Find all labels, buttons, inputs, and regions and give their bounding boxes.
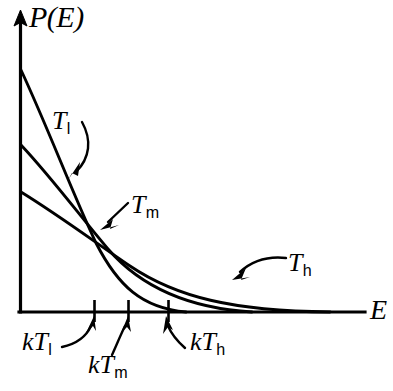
- curve-label-t-high-base: T: [288, 248, 302, 277]
- tick-label-ktm: kTm: [88, 352, 127, 378]
- curve-label-t-mid-base: T: [131, 190, 145, 219]
- curve-label-t-mid: Tm: [131, 192, 159, 218]
- tick-label-kth-base: T: [202, 327, 216, 356]
- tick-label-kth-subscript: h: [216, 340, 225, 358]
- pointer-ktl: [62, 316, 96, 347]
- pointer-t-mid-line: [108, 203, 128, 222]
- tick-label-kth: kTh: [190, 329, 225, 355]
- tick-label-ktl-base: T: [34, 327, 48, 356]
- tick-label-ktl: kTl: [22, 329, 52, 355]
- curve-t-mid: [21, 145, 252, 312]
- tick-label-ktm-subscript: m: [114, 363, 127, 381]
- y-axis-label: P(E): [29, 2, 84, 32]
- distribution-curves: [21, 70, 330, 312]
- pointer-t-high-line: [240, 258, 286, 272]
- curve-t-high: [21, 192, 330, 312]
- tick-label-ktm-prefix: k: [88, 350, 100, 379]
- pointer-t-low-arrowhead-icon: [68, 162, 80, 180]
- tick-label-ktl-subscript: l: [48, 340, 52, 358]
- curve-t-low: [21, 70, 186, 312]
- tick-label-kth-prefix: k: [190, 327, 202, 356]
- boltzmann-distribution-figure: P(E) E Tl Tm Th kTl kTm kTh: [0, 0, 393, 391]
- pointer-t-mid: [100, 203, 128, 230]
- curve-label-t-high-subscript: h: [303, 261, 312, 279]
- curve-label-t-mid-subscript: m: [146, 203, 159, 221]
- curve-label-t-high: Th: [288, 250, 311, 276]
- curve-label-t-low-base: T: [52, 106, 66, 135]
- pointer-kth: [163, 316, 185, 348]
- x-axis-label: E: [370, 296, 387, 324]
- pointer-t-high: [232, 258, 286, 280]
- pointer-t-low: [68, 122, 88, 180]
- curve-label-t-low-subscript: l: [67, 119, 71, 137]
- y-axis: [14, 10, 27, 312]
- pointer-ktm: [112, 316, 131, 355]
- pointer-t-low-line: [76, 122, 88, 172]
- pointer-ktl-line: [62, 326, 91, 347]
- pointer-kth-line: [168, 326, 185, 348]
- tick-label-ktm-base: T: [100, 350, 114, 379]
- tick-label-ktl-prefix: k: [22, 327, 34, 356]
- curve-label-t-low: Tl: [52, 108, 70, 134]
